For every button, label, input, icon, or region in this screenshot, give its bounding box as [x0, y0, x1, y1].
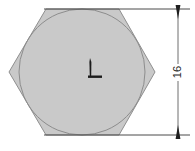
center-mark-horizontal-icon	[88, 76, 102, 78]
arrowhead-bottom-icon	[176, 125, 181, 139]
arrowhead-top-icon	[176, 5, 181, 19]
dimension-label-16: 16	[171, 66, 183, 78]
drawing-svg: 16	[0, 0, 195, 151]
technical-drawing-canvas: 16	[0, 0, 195, 151]
hexagon-outline	[9, 9, 155, 135]
